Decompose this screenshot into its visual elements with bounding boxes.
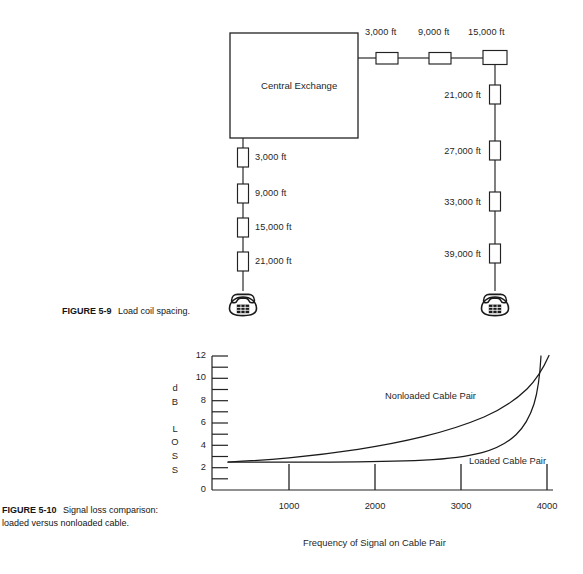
load-coil-r-3 [490, 192, 501, 211]
y-axis-label-12: 12 [188, 350, 206, 360]
load-coil-d-4 [238, 252, 249, 271]
coil-label-r-21000: 21,000 ft [421, 90, 481, 101]
y-axis-title: d B L O S S [168, 381, 182, 476]
y-axis-label-6: 6 [188, 417, 206, 427]
y-axis-title-char-2 [168, 408, 182, 422]
x-axis-label-3000: 3000 [442, 501, 480, 511]
series-annotation-loaded: Loaded Cable Pair [469, 456, 546, 466]
figure-page: Central Exchange 3,000 ft 9,000 ft 15,00… [0, 0, 583, 574]
load-coil-d-2 [238, 184, 249, 203]
figure-5-9-caption-text: Load coil spacing. [118, 306, 190, 316]
load-coil-r-2 [490, 141, 501, 160]
coil-label-d-21000: 21,000 ft [255, 256, 292, 267]
y-axis-label-4: 4 [188, 440, 206, 450]
load-coil-h-2 [429, 53, 451, 65]
coil-label-r-39000: 39,000 ft [421, 249, 481, 260]
chart-curves [228, 356, 549, 463]
y-axis-title-char-6: S [168, 463, 182, 477]
figure-5-10-caption: FIGURE 5-10 Signal loss comparison: load… [2, 504, 162, 529]
y-axis-label-8: 8 [188, 395, 206, 405]
coil-label-h-9000: 9,000 ft [418, 27, 449, 38]
y-axis-label-10: 10 [188, 372, 206, 382]
y-axis-label-2: 2 [188, 462, 206, 472]
y-axis-title-char-5: S [168, 449, 182, 463]
figure-5-10-caption-label: FIGURE 5-10 [2, 505, 57, 515]
coil-label-d-3000: 3,000 ft [255, 152, 286, 163]
y-axis-title-char-0: d [168, 381, 182, 395]
telephone-icon-right [482, 294, 509, 315]
central-exchange-label: Central Exchange [261, 80, 337, 91]
coil-label-d-9000: 9,000 ft [255, 188, 286, 199]
coil-label-h-3000: 3,000 ft [365, 27, 396, 38]
y-axis-label-0: 0 [188, 484, 206, 494]
x-ticks [289, 464, 547, 490]
y-ticks [212, 367, 228, 479]
coil-label-h-15000: 15,000 ft [468, 27, 505, 38]
x-axis-label-1000: 1000 [270, 501, 308, 511]
figure-5-9-caption: FIGURE 5-9 Load coil spacing. [62, 305, 292, 318]
load-coil-h-3 [483, 51, 507, 65]
series-annotation-nonloaded: Nonloaded Cable Pair [385, 391, 476, 401]
y-axis-title-char-4: O [168, 435, 182, 449]
figure-5-9-caption-label: FIGURE 5-9 [62, 306, 112, 316]
y-axis-title-char-1: B [168, 395, 182, 409]
load-coil-d-3 [238, 218, 249, 237]
series-loaded-cable-pair-curve [228, 356, 541, 462]
coil-label-d-15000: 15,000 ft [255, 222, 292, 233]
chart-axes [212, 356, 553, 490]
x-axis-label-4000: 4000 [528, 501, 566, 511]
coil-label-r-33000: 33,000 ft [421, 197, 481, 208]
coil-label-r-27000: 27,000 ft [421, 146, 481, 157]
load-coil-r-4 [490, 244, 501, 263]
load-coil-r-1 [490, 85, 501, 104]
x-axis-label-2000: 2000 [356, 501, 394, 511]
x-axis-title: Frequency of Signal on Cable Pair [303, 537, 446, 548]
load-coil-h-1 [376, 53, 398, 65]
load-coil-d-1 [238, 148, 249, 167]
y-axis-title-char-3: L [168, 422, 182, 436]
